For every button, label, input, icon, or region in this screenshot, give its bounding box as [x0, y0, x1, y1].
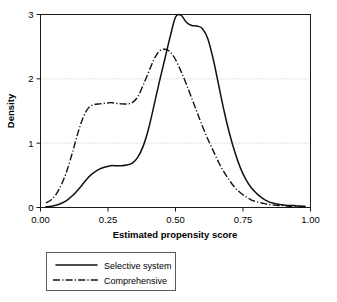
x-tick-label-0.25: 0.25 [99, 214, 118, 225]
legend: Selective system Comprehensive [47, 253, 176, 291]
density-chart-figure: 0.000.250.500.751.00 0123 Estimated prop… [0, 0, 337, 302]
y-tick-label-2: 2 [28, 73, 33, 84]
y-tick-label-1: 1 [28, 138, 33, 149]
x-tick-label-0.75: 0.75 [234, 214, 253, 225]
y-tick-label-3: 3 [28, 9, 33, 20]
y-tick-label-0: 0 [28, 202, 33, 213]
legend-label-comprehensive: Comprehensive [104, 276, 167, 286]
y-axis-title: Density [5, 93, 16, 128]
legend-label-selective-system: Selective system [104, 261, 172, 271]
x-tick-label-0.50: 0.50 [166, 214, 185, 225]
x-axis-title: Estimated propensity score [113, 229, 238, 240]
x-tick-label-1.00: 1.00 [301, 214, 320, 225]
chart-canvas: 0.000.250.500.751.00 0123 Estimated prop… [0, 0, 337, 302]
x-tick-label-0.00: 0.00 [31, 214, 50, 225]
